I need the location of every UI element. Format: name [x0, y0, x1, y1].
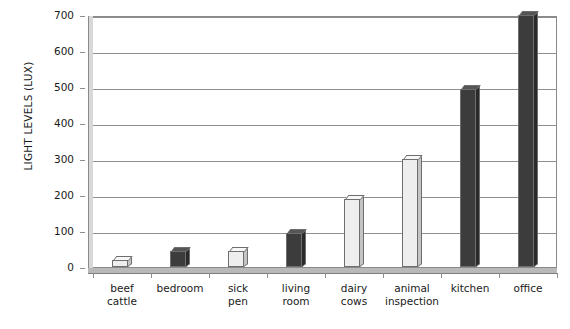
- bar-side-face: [418, 156, 422, 267]
- bar-front-face: [170, 251, 186, 267]
- bar-front-face: [112, 260, 128, 267]
- y-axis-tick: [80, 124, 85, 125]
- bar-side-face: [476, 86, 480, 267]
- y-axis-tick: [80, 52, 85, 53]
- y-axis-tick: [80, 268, 85, 269]
- bar-top-face: [171, 247, 190, 251]
- bar: [402, 159, 418, 267]
- y-axis-title: LIGHT LEVELS (LUX): [22, 41, 34, 191]
- x-axis-tick: [209, 273, 210, 278]
- bar: [460, 89, 476, 267]
- gridline: [93, 125, 557, 126]
- gridline: [93, 17, 557, 18]
- x-axis-3d-floor: [88, 268, 557, 274]
- x-axis-label-line: cattle: [83, 295, 161, 308]
- y-axis-label: 300: [28, 153, 74, 165]
- bar-side-face: [534, 12, 538, 267]
- x-axis-tick: [93, 273, 94, 278]
- bar-top-face: [403, 155, 422, 159]
- bar-front-face: [344, 199, 360, 267]
- bar-front-face: [518, 15, 534, 267]
- y-axis-label: 600: [28, 45, 74, 57]
- x-axis-tick: [499, 273, 500, 278]
- bar-front-face: [402, 159, 418, 267]
- gridline: [93, 233, 557, 234]
- bar-top-face: [287, 229, 306, 233]
- bar: [170, 251, 186, 267]
- y-axis-label: 700: [28, 9, 74, 21]
- gridline: [93, 89, 557, 90]
- x-axis-label-line: office: [489, 282, 567, 295]
- bar-front-face: [460, 89, 476, 267]
- bar-top-face: [461, 85, 480, 89]
- y-axis-label: 0: [28, 261, 74, 273]
- x-axis-label-line: inspection: [373, 295, 451, 308]
- x-axis-tick: [441, 273, 442, 278]
- bar: [112, 260, 128, 267]
- bar-top-face: [345, 195, 364, 199]
- gridline: [93, 161, 557, 162]
- x-axis-label: office: [489, 282, 567, 295]
- x-axis-tick: [383, 273, 384, 278]
- bar: [286, 233, 302, 267]
- y-axis-tick: [80, 88, 85, 89]
- y-axis-label: 200: [28, 189, 74, 201]
- y-axis-tick: [80, 196, 85, 197]
- x-axis-tick: [267, 273, 268, 278]
- bar: [518, 15, 534, 267]
- bar-side-face: [302, 230, 306, 267]
- bar-chart: LIGHT LEVELS (LUX) 010020030040050060070…: [0, 0, 570, 329]
- gridline: [93, 197, 557, 198]
- x-axis-tick: [325, 273, 326, 278]
- y-axis-tick: [80, 160, 85, 161]
- bar-top-face: [229, 247, 248, 251]
- x-axis-tick: [557, 273, 558, 278]
- bar-top-face: [113, 256, 132, 260]
- bar-top-face: [519, 11, 538, 15]
- y-axis-tick: [80, 232, 85, 233]
- bar: [228, 251, 244, 267]
- y-axis-label: 400: [28, 117, 74, 129]
- y-axis-tick: [80, 16, 85, 17]
- y-axis-label: 100: [28, 225, 74, 237]
- y-axis-label: 500: [28, 81, 74, 93]
- bar-front-face: [286, 233, 302, 267]
- bar: [344, 199, 360, 267]
- x-axis-tick: [151, 273, 152, 278]
- bar-front-face: [228, 251, 244, 267]
- bar-side-face: [360, 195, 364, 267]
- gridline: [93, 53, 557, 54]
- plot-area: [93, 16, 557, 268]
